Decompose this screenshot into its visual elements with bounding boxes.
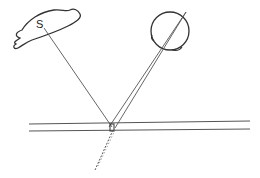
- source-blob: [14, 9, 81, 48]
- diagram-canvas: S: [0, 0, 260, 178]
- incident-ray: [44, 28, 112, 127]
- virtual-ray: [95, 130, 113, 170]
- reflected-ray-a: [109, 12, 186, 127]
- pane-top-edge: [29, 121, 250, 124]
- source-label: S: [36, 19, 43, 30]
- pane-bottom-edge: [29, 129, 250, 131]
- virtual-ray-shadow: [98, 130, 115, 166]
- eye-circle: [151, 12, 189, 50]
